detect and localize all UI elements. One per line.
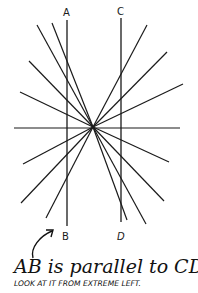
radial-line [93, 52, 167, 127]
radiating-lines [20, 23, 183, 224]
radial-line [21, 127, 93, 203]
label-d: D [117, 231, 125, 242]
label-c: C [117, 6, 124, 17]
label-a: A [63, 7, 70, 18]
illusion-figure: A C B D AB is parallel to CD. LOOK AT IT… [0, 0, 198, 293]
subcaption: LOOK AT IT FROM EXTREME LEFT. [14, 279, 141, 288]
radial-line [93, 127, 146, 224]
radial-line [37, 25, 93, 127]
radial-line [46, 127, 93, 218]
radial-line [93, 84, 183, 127]
radial-line [52, 23, 93, 127]
radial-line [93, 25, 147, 127]
radial-line [20, 92, 93, 127]
label-b: B [62, 231, 69, 242]
radial-line [93, 127, 164, 201]
arrow-icon [32, 231, 52, 258]
radial-line [23, 127, 93, 164]
caption: AB is parallel to CD. [12, 255, 198, 277]
radial-line [29, 61, 93, 127]
